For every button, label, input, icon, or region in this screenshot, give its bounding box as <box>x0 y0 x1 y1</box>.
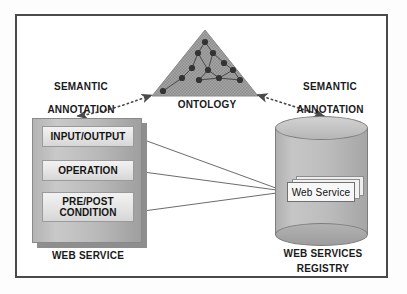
registry-cylinder-bottom <box>275 223 368 246</box>
web-service-component-input-output[interactable]: INPUT/OUTPUT <box>42 126 134 147</box>
registry-cylinder-top <box>275 116 368 140</box>
semantic-annotation-right-line1: SEMANTIC <box>303 81 357 92</box>
semantic-annotation-label-left: SEMANTIC ANNOTATION <box>32 70 130 115</box>
diagram-canvas: ontology --> registry --> SEMANTIC ANNOT… <box>0 0 407 294</box>
web-service-caption: WEB SERVICE <box>28 250 148 261</box>
semantic-annotation-right-line2: ANNOTATION <box>296 104 363 115</box>
semantic-annotation-left-line2: ANNOTATION <box>47 104 114 115</box>
web-service-component-operation[interactable]: OPERATION <box>42 160 134 181</box>
registry-entry-card[interactable]: Web Service <box>287 182 355 202</box>
semantic-annotation-label-right: SEMANTIC ANNOTATION <box>280 70 380 115</box>
registry-caption-line-1: WEB SERVICES <box>268 248 378 259</box>
registry-caption-line-2: REGISTRY <box>268 263 378 274</box>
web-service-component-pre-post-condition[interactable]: PRE/POST CONDITION <box>42 192 134 222</box>
semantic-annotation-left-line1: SEMANTIC <box>54 81 108 92</box>
ontology-label: ONTOLOGY <box>155 99 259 110</box>
